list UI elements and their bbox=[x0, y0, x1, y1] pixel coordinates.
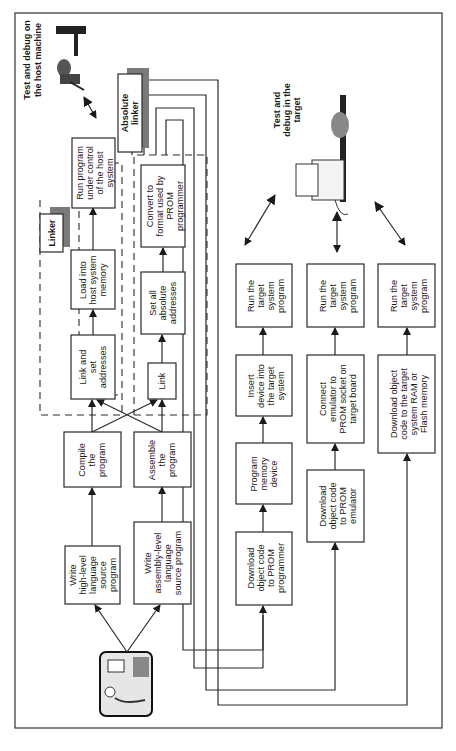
box-assemble: Assemble the program bbox=[134, 432, 191, 487]
svg-text:assembly-level: assembly-level bbox=[153, 533, 163, 594]
svg-text:program: program bbox=[276, 279, 286, 314]
svg-text:memory: memory bbox=[259, 457, 269, 491]
box-set-absolute-addresses: Set all absolute addresses bbox=[141, 272, 185, 334]
svg-text:memory: memory bbox=[98, 263, 108, 297]
svg-text:language: language bbox=[163, 544, 173, 582]
svg-text:system: system bbox=[276, 371, 286, 400]
svg-text:Write: Write bbox=[143, 552, 153, 573]
svg-text:device into: device into bbox=[256, 364, 266, 408]
box-run-target-2: Run the target system program bbox=[307, 264, 364, 327]
double-arrow bbox=[84, 97, 96, 118]
double-arrow bbox=[245, 195, 275, 245]
svg-text:system: system bbox=[409, 281, 419, 310]
svg-text:emulator to: emulator to bbox=[328, 376, 338, 422]
svg-text:to PROM: to PROM bbox=[266, 549, 276, 587]
svg-text:Linker: Linker bbox=[47, 219, 57, 247]
double-arrow bbox=[375, 202, 405, 245]
svg-text:linker: linker bbox=[130, 100, 140, 125]
box-compile: Compile the program bbox=[64, 432, 121, 487]
box-download-prom-programmer: Download object code to PROM programmer bbox=[236, 532, 292, 605]
svg-text:Link: Link bbox=[157, 372, 167, 389]
svg-text:Run the: Run the bbox=[246, 280, 256, 312]
arrow bbox=[95, 605, 127, 652]
svg-text:program: program bbox=[348, 279, 358, 314]
person-with-target-board-icon bbox=[296, 95, 349, 215]
svg-text:set: set bbox=[88, 360, 98, 373]
svg-text:language: language bbox=[88, 556, 98, 594]
svg-text:target: target bbox=[256, 284, 266, 308]
svg-text:host system: host system bbox=[88, 255, 98, 304]
linker-label: Linker bbox=[40, 207, 70, 252]
box-load-host-memory: Load into host system memory bbox=[71, 250, 115, 309]
svg-text:target: target bbox=[292, 97, 302, 122]
box-write-assembly: Write assembly-level language source pro… bbox=[134, 522, 191, 604]
host-test-label: Test and debug on the host machine bbox=[22, 20, 43, 99]
svg-text:system: system bbox=[105, 158, 115, 187]
box-download-prom-emulator: Download object code to PROM emulator bbox=[307, 470, 364, 542]
svg-text:Test and debug on: Test and debug on bbox=[22, 20, 32, 99]
svg-text:target: target bbox=[328, 284, 338, 308]
svg-text:Set all: Set all bbox=[148, 290, 158, 316]
svg-text:program: program bbox=[97, 443, 107, 478]
svg-text:Absolute: Absolute bbox=[120, 94, 130, 133]
svg-text:system RAM or: system RAM or bbox=[409, 373, 419, 436]
svg-text:Download object: Download object bbox=[389, 370, 399, 438]
svg-text:the: the bbox=[87, 454, 97, 467]
svg-text:target board: target board bbox=[348, 374, 358, 424]
svg-text:format used by: format used by bbox=[155, 175, 165, 236]
svg-text:emulator: emulator bbox=[348, 488, 358, 524]
svg-text:Download: Download bbox=[318, 486, 328, 527]
absolute-linker-label: Absolute linker bbox=[118, 68, 149, 152]
svg-text:device: device bbox=[269, 461, 279, 488]
box-link-set-addresses: Link and set addresses bbox=[71, 335, 115, 399]
svg-text:Run the: Run the bbox=[318, 280, 328, 312]
svg-text:source program: source program bbox=[173, 530, 183, 595]
box-connect-emulator: Connect emulator to PROM socket on targe… bbox=[307, 355, 364, 443]
svg-text:Write: Write bbox=[68, 564, 78, 585]
svg-text:Run program: Run program bbox=[75, 146, 85, 200]
svg-text:system: system bbox=[338, 281, 348, 310]
svg-text:Download: Download bbox=[246, 548, 256, 589]
svg-text:Link and: Link and bbox=[78, 350, 88, 385]
svg-text:Connect: Connect bbox=[318, 381, 328, 416]
svg-text:the host machine: the host machine bbox=[33, 23, 43, 97]
svg-text:Program: Program bbox=[249, 456, 259, 492]
target-test-label: Test and debug in the target bbox=[272, 83, 302, 137]
svg-text:object code: object code bbox=[256, 545, 266, 592]
svg-text:Convert to: Convert to bbox=[145, 185, 155, 227]
svg-text:target: target bbox=[399, 284, 409, 308]
svg-text:object code: object code bbox=[328, 483, 338, 530]
svg-text:under control: under control bbox=[85, 146, 95, 200]
box-link: Link bbox=[148, 363, 176, 399]
svg-text:Test and: Test and bbox=[272, 92, 282, 128]
svg-text:addresses: addresses bbox=[168, 281, 178, 324]
svg-text:PROM socket on: PROM socket on bbox=[338, 364, 348, 433]
svg-text:programmer: programmer bbox=[276, 543, 286, 593]
svg-text:PROM: PROM bbox=[165, 192, 175, 220]
svg-text:Flash memory: Flash memory bbox=[419, 374, 429, 433]
box-program-memory-device: Program memory device bbox=[236, 443, 292, 504]
box-run-under-host: Run program under control of the host sy… bbox=[72, 138, 115, 208]
box-run-target-3: Run the target system program bbox=[378, 264, 435, 327]
svg-text:code to the target: code to the target bbox=[399, 368, 409, 440]
svg-text:program: program bbox=[167, 443, 177, 478]
svg-text:the: the bbox=[157, 454, 167, 467]
box-download-ram-flash: Download object code to the target syste… bbox=[378, 355, 435, 453]
svg-text:program: program bbox=[419, 279, 429, 314]
arrow bbox=[127, 605, 160, 652]
box-run-target-1: Run the target system program bbox=[236, 264, 292, 327]
svg-text:high-level: high-level bbox=[78, 555, 88, 594]
box-write-high-level: Write high-level language source program bbox=[65, 546, 120, 604]
svg-text:of the host: of the host bbox=[95, 151, 105, 194]
svg-text:Run the: Run the bbox=[389, 280, 399, 312]
svg-text:program: program bbox=[108, 558, 118, 593]
programmer-at-desk-icon bbox=[100, 652, 152, 716]
svg-text:absolute: absolute bbox=[158, 286, 168, 321]
svg-text:Assemble: Assemble bbox=[147, 440, 157, 480]
svg-text:to PROM: to PROM bbox=[338, 487, 348, 525]
arrow bbox=[97, 400, 162, 432]
person-debugging-at-desk-icon bbox=[56, 26, 86, 90]
svg-text:system: system bbox=[266, 281, 276, 310]
svg-text:debug in the: debug in the bbox=[282, 83, 292, 137]
svg-text:addresses: addresses bbox=[98, 345, 108, 388]
